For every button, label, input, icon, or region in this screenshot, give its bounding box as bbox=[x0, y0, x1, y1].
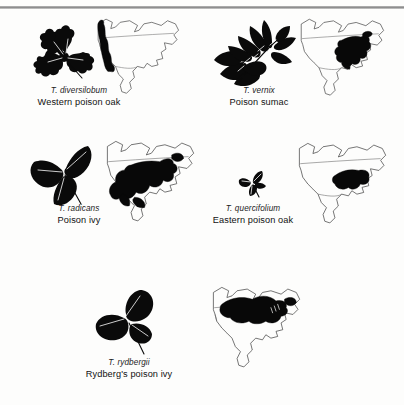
scientific-name-quercifolium: T. quercifolium bbox=[188, 204, 318, 214]
caption-rydbergii: T. rydbergii Rydberg's poison ivy bbox=[64, 358, 194, 381]
scientific-name-radicans: T. radicans bbox=[14, 204, 144, 214]
caption-diversilobum: T. diversilobum Western poison oak bbox=[14, 86, 144, 109]
figure-plate: T. diversilobum Western poison oak bbox=[0, 0, 404, 405]
caption-radicans: T. radicans Poison ivy bbox=[14, 204, 144, 227]
common-name-vernix: Poison sumac bbox=[194, 97, 324, 109]
leaf-icon-vernix bbox=[214, 18, 296, 88]
caption-quercifolium: T. quercifolium Eastern poison oak bbox=[188, 204, 318, 227]
common-name-radicans: Poison ivy bbox=[14, 215, 144, 227]
common-name-diversilobum: Western poison oak bbox=[14, 97, 144, 109]
leaf-icon-quercifolium bbox=[236, 168, 270, 200]
range-map-rydbergii bbox=[202, 284, 306, 372]
top-horizontal-rule bbox=[0, 6, 404, 9]
scientific-name-diversilobum: T. diversilobum bbox=[14, 86, 144, 96]
common-name-quercifolium: Eastern poison oak bbox=[188, 215, 318, 227]
scientific-name-vernix: T. vernix bbox=[194, 86, 324, 96]
leaf-icon-radicans bbox=[26, 140, 102, 208]
scientific-name-rydbergii: T. rydbergii bbox=[64, 358, 194, 368]
caption-vernix: T. vernix Poison sumac bbox=[194, 86, 324, 109]
common-name-rydbergii: Rydberg's poison ivy bbox=[64, 369, 194, 381]
leaf-icon-rydbergii bbox=[86, 286, 166, 356]
